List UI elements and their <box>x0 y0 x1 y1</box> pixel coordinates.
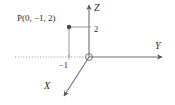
axes-diagram-svg: Z Y X 2 −1 P(0, −1, 2) <box>0 0 175 105</box>
x-axis-label: X <box>43 80 51 91</box>
y-axis-label: Y <box>155 40 162 51</box>
z-tick-label-2: 2 <box>94 24 98 34</box>
z-axis-label: Z <box>94 2 100 13</box>
coordinate-diagram: Z Y X 2 −1 P(0, −1, 2) <box>0 0 175 105</box>
point-p-marker <box>67 25 71 29</box>
point-p-label: P(0, −1, 2) <box>17 13 56 23</box>
y-tick-label-neg1: −1 <box>59 60 68 70</box>
